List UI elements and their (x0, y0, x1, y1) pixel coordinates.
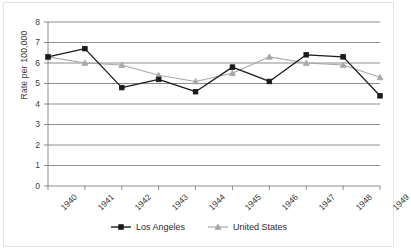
legend-item-los-angeles[interactable]: Los Angeles (110, 222, 185, 232)
series-line (48, 57, 380, 82)
chart-legend: Los AngelesUnited States (0, 222, 397, 232)
data-point-marker (229, 70, 235, 75)
data-point-marker (193, 89, 198, 94)
legend-label: United States (233, 222, 287, 232)
legend-label: Los Angeles (136, 222, 185, 232)
data-point-marker (119, 85, 124, 90)
data-point-marker (46, 55, 51, 60)
series-los-angeles (46, 46, 383, 98)
data-point-marker (266, 54, 272, 59)
data-point-marker (119, 225, 124, 230)
data-point-marker (230, 65, 235, 70)
legend-item-united-states[interactable]: United States (207, 222, 287, 232)
data-point-marker (378, 94, 383, 99)
data-point-marker (156, 77, 161, 82)
legend-marker-icon (207, 222, 229, 232)
series-line (48, 49, 380, 96)
data-point-marker (341, 55, 346, 60)
data-point-marker (267, 79, 272, 84)
data-point-marker (83, 46, 88, 51)
legend-marker-icon (110, 222, 132, 232)
data-point-marker (304, 53, 309, 58)
